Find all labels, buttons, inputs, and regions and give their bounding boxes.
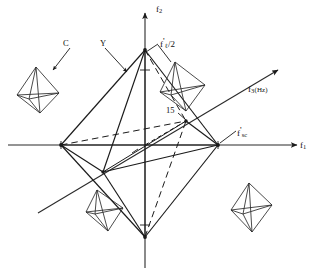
annotation-15: 15 xyxy=(166,106,175,115)
crystal-lower-left xyxy=(86,190,123,231)
annotation-y: Y xyxy=(100,39,106,48)
crystal-main xyxy=(61,50,218,237)
diagram-svg xyxy=(0,0,315,276)
crystal-upper-left xyxy=(17,67,59,113)
axis-f3 xyxy=(38,70,278,213)
crystal-lower-right xyxy=(231,183,272,232)
annotation-c: C xyxy=(63,39,69,48)
crystal-main-vertices xyxy=(59,48,220,239)
axis-label-f3: f3(Hz) xyxy=(248,85,268,95)
figure-canvas: f2 f1 f3(Hz) f'ℓ/2 f'sc 15 C Y xyxy=(0,0,315,276)
leader-y xyxy=(105,48,127,72)
annotation-fl-half: f'ℓ/2 xyxy=(160,37,175,49)
axis-label-f1: f1 xyxy=(300,141,306,151)
leader-fsc xyxy=(220,131,236,143)
crystal-upper-right xyxy=(160,62,205,111)
annotation-fsc: f'sc xyxy=(237,126,247,138)
leader-c xyxy=(53,48,70,70)
axis-label-f2: f2 xyxy=(156,5,162,15)
